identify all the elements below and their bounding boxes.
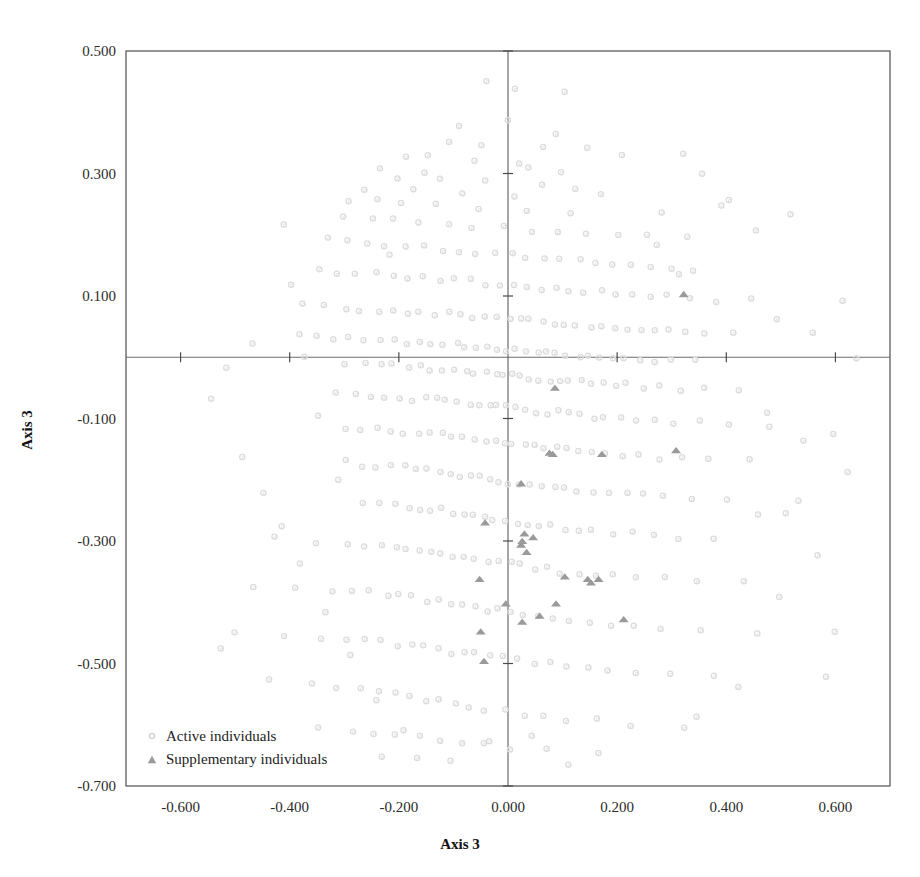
y-tick-label: -0.700 (77, 778, 116, 794)
x-tick-label: -0.600 (161, 799, 200, 815)
y-axis-title: Axis 3 (19, 410, 35, 450)
x-tick-label: 0.600 (819, 799, 853, 815)
legend-item: Supplementary individuals (148, 751, 328, 767)
scatter-plot-figure: 0.5000.3000.100-0.100-0.300-0.500-0.700 … (0, 0, 920, 877)
x-tick-label: -0.400 (270, 799, 309, 815)
x-tick-label: 0.000 (491, 799, 525, 815)
y-tick-label: 0.300 (82, 166, 116, 182)
y-tick-label: 0.500 (82, 43, 116, 59)
legend-item: Active individuals (149, 728, 276, 744)
y-tick-label: -0.100 (77, 411, 116, 427)
x-tick-label: 0.200 (600, 799, 634, 815)
y-tick-label: 0.100 (82, 288, 116, 304)
y-tick-label: -0.300 (77, 533, 116, 549)
x-tick-label: 0.400 (709, 799, 743, 815)
legend-item-label: Active individuals (166, 728, 277, 744)
x-tick-label: -0.200 (380, 799, 419, 815)
x-axis-title: Axis 3 (440, 836, 480, 852)
plot-svg: 0.5000.3000.100-0.100-0.300-0.500-0.700 … (0, 0, 920, 877)
y-tick-label: -0.500 (77, 656, 116, 672)
legend-item-label: Supplementary individuals (166, 751, 327, 767)
